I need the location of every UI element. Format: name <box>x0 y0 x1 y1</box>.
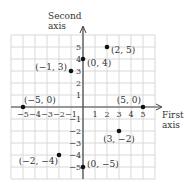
y-tick-label: −1 <box>69 115 81 124</box>
point-label: (−1, 3) <box>35 62 67 72</box>
x-tick-label: −5 <box>17 110 29 119</box>
data-point <box>81 165 86 170</box>
data-point <box>69 69 74 74</box>
x-tick-label: −3 <box>41 110 53 119</box>
y-tick-label: 5 <box>76 43 81 52</box>
x-tick-label: 1 <box>92 110 97 119</box>
x-tick-label: −4 <box>29 110 41 119</box>
point-label: (2, 5) <box>111 45 135 55</box>
x-tick-label: 2 <box>104 110 109 119</box>
data-point <box>21 105 26 110</box>
data-point <box>141 105 146 110</box>
y-tick-label: −3 <box>69 139 81 148</box>
data-point <box>81 57 86 62</box>
data-point <box>105 45 110 50</box>
y-tick-label: 1 <box>76 91 81 100</box>
x-tick-label: 5 <box>140 110 145 119</box>
y-tick-label: 3 <box>76 67 81 76</box>
y-tick-label: −4 <box>69 151 81 160</box>
point-label: (−2, −4) <box>19 156 58 166</box>
x-tick-label: −2 <box>53 110 65 119</box>
y-axis-label: Second <box>48 11 82 21</box>
point-label: (5, 0) <box>117 95 141 105</box>
coordinate-plane: −5−4−3−2−11234554321−1−2−3−4−5 (2, 5)(0,… <box>0 0 190 189</box>
x-tick-label: 4 <box>128 110 133 119</box>
x-tick-label: 3 <box>116 110 121 119</box>
x-axis-label: First <box>162 110 184 120</box>
y-axis-label-line2: axis <box>48 21 66 31</box>
y-tick-label: 2 <box>76 79 81 88</box>
y-tick-label: −5 <box>69 163 81 172</box>
y-tick-label: 4 <box>76 55 81 64</box>
point-label: (3, −2) <box>103 134 135 144</box>
x-axis-label-line2: axis <box>162 120 180 130</box>
point-label: (0, −5) <box>87 159 119 169</box>
point-label: (−5, 0) <box>24 95 56 105</box>
y-tick-label: −2 <box>69 127 81 136</box>
point-label: (0, 4) <box>87 58 111 68</box>
data-point <box>117 129 122 134</box>
